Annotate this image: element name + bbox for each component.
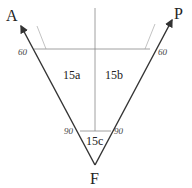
- ray-to-A: [21, 26, 95, 165]
- angle-label-top-left: 60: [18, 47, 28, 57]
- left-normal-line: [37, 26, 46, 49]
- right-normal-line: [145, 24, 155, 49]
- region-label-15c: 15c: [86, 134, 103, 148]
- angle-label-top-right: 60: [158, 47, 168, 57]
- ray-to-P: [95, 20, 172, 165]
- region-label-15a: 15a: [63, 68, 81, 82]
- angle-label-bottom-left: 90: [64, 126, 74, 136]
- region-label-15b: 15b: [105, 68, 123, 82]
- point-label-A: A: [6, 7, 18, 24]
- diagram-canvas: A P F 15a 15b 15c 60 60 90 90: [0, 0, 192, 188]
- point-label-P: P: [174, 5, 183, 22]
- point-label-F: F: [90, 170, 99, 187]
- angle-label-bottom-right: 90: [114, 126, 124, 136]
